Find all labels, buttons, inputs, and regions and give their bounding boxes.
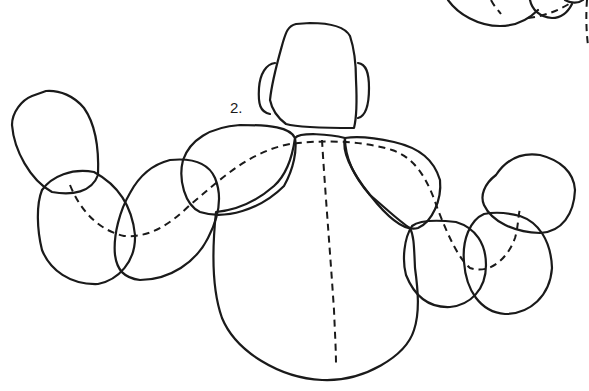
top-right-fragment [448, 0, 588, 45]
arm-line [70, 142, 520, 270]
right-ear [358, 63, 369, 118]
torso [214, 134, 418, 380]
left-shoulder [181, 125, 295, 215]
head [270, 23, 356, 128]
figure-diagram [0, 0, 589, 391]
right-forearm [464, 213, 552, 314]
figure-label: 2. [230, 99, 243, 116]
left-upper-arm [115, 160, 219, 280]
spine-line [322, 140, 336, 365]
